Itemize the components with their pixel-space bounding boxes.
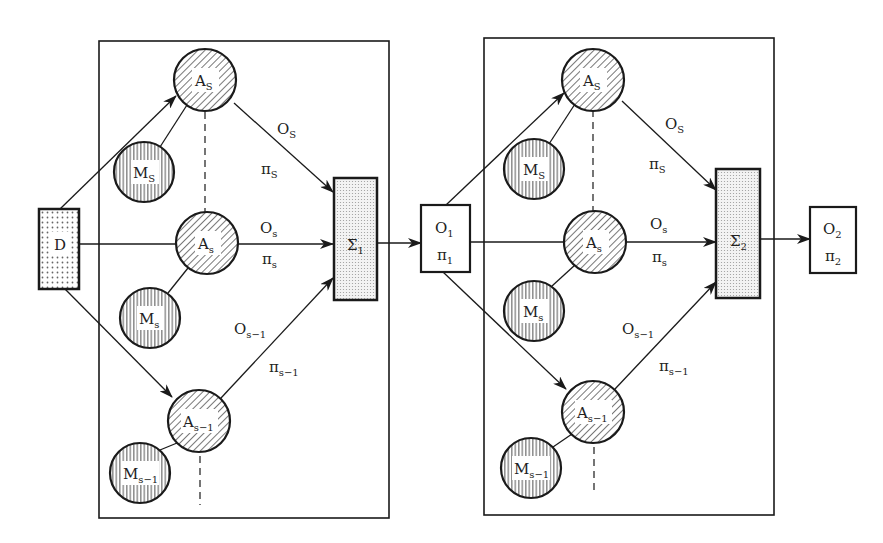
two-stage-agent-diagram: D AS MS As Ms As−1 Ms−1 — [0, 0, 883, 543]
memory-node-ms-minus-1-2: Ms−1 — [501, 438, 561, 498]
edge-label-pis-top-2: πS — [649, 155, 666, 175]
memory-node-ms-top: MS — [114, 142, 174, 202]
edge-label-pis-top: πS — [261, 160, 278, 180]
edge-label-pis-minus-1: πs−1 — [269, 358, 299, 378]
edge-as-bottom-to-sum1 — [221, 278, 333, 398]
edge-label-pis-minus-1-2: πs−1 — [659, 357, 689, 377]
edge-as-top-to-sum1 — [234, 103, 333, 192]
link-m-a-mid-2 — [552, 265, 575, 286]
input-box-d: D — [39, 209, 79, 289]
memory-node-ms-minus-1: Ms−1 — [110, 443, 170, 503]
link-m-a-top-2 — [549, 104, 575, 144]
link-m-a-top — [160, 105, 187, 147]
agent-node-as-mid: As — [176, 212, 238, 274]
edge-label-os-top-2: OS — [665, 115, 684, 135]
edge-label-os-mid-2: Os — [650, 215, 667, 235]
memory-node-ms-mid-2: Ms — [504, 281, 564, 341]
agent-node-as-mid-2: As — [564, 211, 626, 273]
memory-node-ms-mid: Ms — [120, 288, 180, 348]
link-m-a-bottom — [160, 443, 177, 450]
edge-label-pis-mid: πs — [262, 250, 277, 270]
agent-node-as-top: AS — [174, 49, 236, 111]
link-m-a-mid — [168, 268, 188, 293]
stage2-output-box: O2 π2 — [810, 207, 856, 273]
stage1-output-box: O1 π1 — [421, 205, 470, 272]
svg-text:D: D — [54, 236, 66, 254]
memory-node-ms-top-2: MS — [504, 139, 564, 199]
edge-label-os-top: OS — [277, 120, 296, 140]
aggregator-sigma-1: Σ1 — [334, 178, 377, 300]
agent-node-as-minus-1-2: As−1 — [562, 381, 624, 443]
edge-label-pis-mid-2: πs — [652, 248, 667, 268]
link-m-a-bottom-2 — [553, 434, 572, 447]
agent-node-as-top-2: AS — [562, 49, 624, 111]
edge-label-os-mid: Os — [260, 219, 277, 239]
aggregator-sigma-2: Σ2 — [716, 169, 760, 298]
edge-label-os-minus-1-2: Os−1 — [622, 320, 654, 340]
edge-label-os-minus-1: Os−1 — [234, 320, 266, 340]
agent-node-as-minus-1: As−1 — [168, 390, 230, 452]
